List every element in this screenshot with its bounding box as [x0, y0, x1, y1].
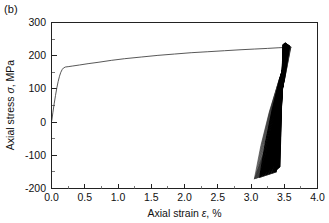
x-tick-label: 0.0 [44, 191, 59, 203]
y-axis-tick-labels: 300 200 100 0 -100 -200 [25, 16, 46, 194]
y-axis-title: Axial stress σ, MPa [4, 60, 16, 151]
x-tick-label: 0.5 [77, 191, 92, 203]
x-tick-label: 4.0 [310, 191, 325, 203]
x-tick-label: 1.5 [144, 191, 159, 203]
y-axis-title-suffix: , MPa [4, 60, 16, 88]
y-tick-label: -100 [25, 149, 46, 161]
x-axis-title: Axial strain ε, % [147, 207, 221, 219]
x-tick-label: 2.0 [177, 191, 192, 203]
x-tick-label: 3.5 [277, 191, 292, 203]
figure-panel: (b) [0, 0, 329, 223]
y-tick-label: 0 [40, 116, 46, 128]
cyclic-hysteresis-loops [254, 43, 291, 179]
y-tick-label: 100 [28, 82, 46, 94]
x-axis-title-prefix: Axial strain [147, 207, 201, 219]
svg-text:Axial stress σ, MPa: Axial stress σ, MPa [4, 60, 16, 151]
x-tick-label: 2.5 [210, 191, 225, 203]
stress-strain-chart: 300 200 100 0 -100 -200 0.0 0.5 1.0 1.5 … [0, 0, 329, 223]
y-axis-title-prefix: Axial stress [4, 94, 16, 151]
x-axis-title-suffix: , % [206, 207, 221, 219]
x-tick-label: 3.0 [244, 191, 259, 203]
x-axis-major-ticks [52, 184, 318, 189]
monotonic-loading-curve [52, 47, 291, 120]
y-tick-label: 300 [28, 16, 46, 28]
x-tick-label: 1.0 [111, 191, 126, 203]
svg-text:Axial strain ε, %: Axial strain ε, % [147, 207, 221, 219]
y-tick-label: -200 [25, 182, 46, 194]
data-area [52, 43, 291, 179]
x-axis-tick-labels: 0.0 0.5 1.0 1.5 2.0 2.5 3.0 3.5 4.0 [44, 191, 325, 203]
y-tick-label: 200 [28, 49, 46, 61]
